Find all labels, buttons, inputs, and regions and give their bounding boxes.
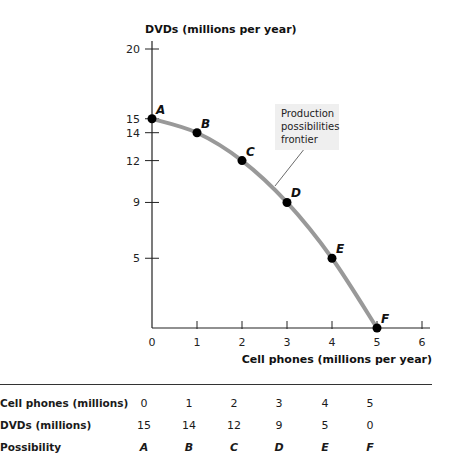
x-tick-label: 5	[374, 336, 381, 349]
table-cell: E	[315, 441, 335, 454]
table-cell: 5	[360, 397, 380, 410]
y-tick-label: 20	[126, 43, 140, 56]
table-cell: 2	[224, 397, 244, 410]
ppf-chart: 59121415200123456DVDs (millions per year…	[0, 0, 460, 380]
annotation-text: possibilities	[281, 121, 339, 132]
x-axis-label: Cell phones (millions per year)	[242, 353, 432, 366]
data-table: Cell phones (millions)012345DVDs (millio…	[0, 384, 432, 385]
annotation-leader-line	[275, 148, 305, 186]
annotation-text: frontier	[281, 134, 319, 145]
table-cell: B	[179, 441, 199, 454]
row-label: DVDs (millions)	[0, 419, 91, 431]
y-tick-label: 14	[126, 127, 140, 140]
table-cell: D	[269, 441, 289, 454]
x-tick-label: 2	[239, 336, 246, 349]
row-label: Possibility	[0, 441, 61, 453]
table-cell: 4	[315, 397, 335, 410]
table-cell: 14	[179, 419, 199, 432]
y-tick-label: 9	[133, 196, 140, 209]
x-tick-label: 6	[419, 336, 426, 349]
ppf-curve	[152, 119, 377, 328]
point-label-e: E	[336, 242, 345, 256]
x-tick-label: 0	[149, 336, 156, 349]
table-row: DVDs (millions)151412950	[0, 419, 432, 435]
table-cell: 12	[224, 419, 244, 432]
table-cell: 1	[179, 397, 199, 410]
table-cell: 9	[269, 419, 289, 432]
table-cell: 5	[315, 419, 335, 432]
point-label-a: A	[155, 103, 165, 117]
table-cell: 15	[134, 419, 154, 432]
x-tick-label: 3	[284, 336, 291, 349]
annotation-text: Production	[281, 108, 334, 119]
table-cell: 0	[134, 397, 154, 410]
point-label-d: D	[291, 186, 301, 200]
y-axis-label: DVDs (millions per year)	[145, 23, 297, 36]
table-row: Cell phones (millions)012345	[0, 397, 432, 413]
row-label: Cell phones (millions)	[0, 397, 128, 409]
x-tick-label: 4	[329, 336, 336, 349]
table-cell: F	[360, 441, 380, 454]
table-cell: 3	[269, 397, 289, 410]
y-tick-label: 12	[126, 155, 140, 168]
point-label-f: F	[381, 312, 390, 326]
point-label-c: C	[246, 145, 255, 159]
table-cell: A	[134, 441, 154, 454]
point-label-b: B	[201, 117, 210, 131]
x-tick-label: 1	[194, 336, 201, 349]
table-cell: 0	[360, 419, 380, 432]
y-tick-label: 15	[126, 113, 140, 126]
table-row: PossibilityABCDEF	[0, 441, 432, 457]
y-tick-label: 5	[133, 252, 140, 265]
table-cell: C	[224, 441, 244, 454]
